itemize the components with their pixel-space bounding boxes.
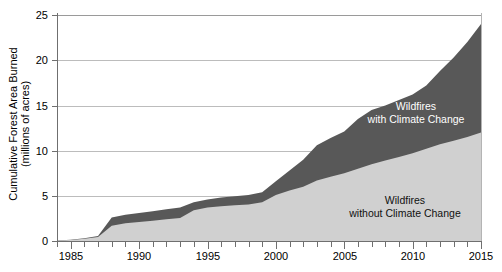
x-tick-label-2015: 2015 [461,250,501,262]
x-tick-2013 [454,242,455,247]
x-tick-1999 [262,242,263,247]
x-tick-1990 [139,242,140,249]
x-tick-1997 [235,242,236,247]
x-tick-2008 [385,242,386,247]
x-tick-1986 [84,242,85,247]
x-tick-label-1990: 1990 [119,250,159,262]
x-tick-1998 [249,242,250,247]
x-tick-1985 [71,242,72,249]
x-tick-2009 [399,242,400,247]
x-tick-1995 [208,242,209,249]
x-tick-1991 [153,242,154,247]
y-axis-line [57,13,58,243]
x-tick-1992 [166,242,167,247]
y-tick-label-0: 0 [22,235,48,247]
x-tick-label-1995: 1995 [188,250,228,262]
x-tick-1984 [57,242,58,247]
x-axis-line [57,241,482,242]
y-tick-label-15: 15 [22,100,48,112]
x-tick-2006 [358,242,359,247]
x-tick-2011 [426,242,427,247]
x-tick-label-2005: 2005 [325,250,365,262]
y-tick-mark-5 [52,196,58,197]
y-tick-mark-10 [52,151,58,152]
x-tick-2007 [372,242,373,247]
annotation-with-climate-change: Wildfires with Climate Change [351,100,481,125]
x-tick-2001 [290,242,291,247]
annotation-without-climate-change: Wildfires without Climate Change [325,194,485,219]
x-tick-2000 [276,242,277,249]
x-tick-1989 [125,242,126,247]
x-tick-1994 [194,242,195,247]
x-tick-1993 [180,242,181,247]
y-axis-title: Cumulative Forest Area Burned (millions … [7,9,31,239]
x-tick-2003 [317,242,318,247]
wildfire-area-chart: Cumulative Forest Area Burned (millions … [0,0,502,272]
y-tick-label-10: 10 [22,145,48,157]
x-tick-2014 [467,242,468,247]
x-tick-label-1985: 1985 [51,250,91,262]
y-tick-mark-25 [52,15,58,16]
x-tick-1988 [112,242,113,247]
x-tick-label-2010: 2010 [393,250,433,262]
x-tick-1996 [221,242,222,247]
x-tick-2004 [331,242,332,247]
x-tick-1987 [98,242,99,247]
x-tick-2005 [344,242,345,249]
x-tick-2012 [440,242,441,247]
y-tick-mark-20 [52,60,58,61]
y-tick-label-20: 20 [22,54,48,66]
x-tick-label-2000: 2000 [256,250,296,262]
y-tick-label-5: 5 [22,190,48,202]
y-tick-mark-15 [52,106,58,107]
x-tick-2002 [303,242,304,247]
y-tick-label-25: 25 [22,9,48,21]
x-tick-2015 [481,242,482,249]
x-tick-2010 [413,242,414,249]
